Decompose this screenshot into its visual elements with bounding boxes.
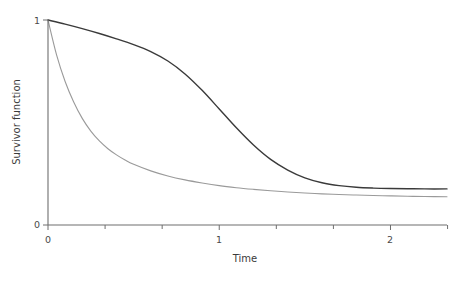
y-axis-title: Survivor function: [11, 79, 22, 165]
chart-background: [0, 0, 466, 281]
x-tick-label-0: 0: [45, 234, 51, 245]
x-tick-label-1: 1: [216, 234, 222, 245]
y-tick-label-1: 1: [34, 15, 40, 26]
survivor-function-chart: 0 1 2 0 1 Time Survivor function: [0, 0, 466, 281]
y-tick-label-0: 0: [34, 219, 40, 230]
x-tick-label-2: 2: [387, 234, 393, 245]
x-axis-title: Time: [232, 253, 257, 264]
